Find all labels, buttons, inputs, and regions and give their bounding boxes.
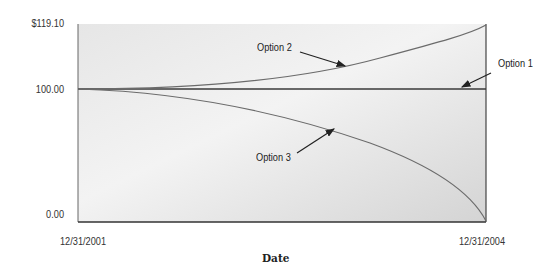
plot-area	[78, 24, 486, 222]
label-option-1: Option 1	[498, 58, 533, 69]
y-tick-100: 100.00	[9, 84, 64, 95]
x-tick-start: 12/31/2001	[60, 236, 106, 247]
x-axis-title: Date	[262, 252, 289, 264]
y-tick-0: 0.00	[9, 209, 64, 220]
label-option-3: Option 3	[256, 152, 291, 163]
y-tick-top: $119.10	[9, 18, 64, 29]
x-tick-end: 12/31/2004	[459, 236, 505, 247]
label-option-2: Option 2	[257, 42, 292, 53]
